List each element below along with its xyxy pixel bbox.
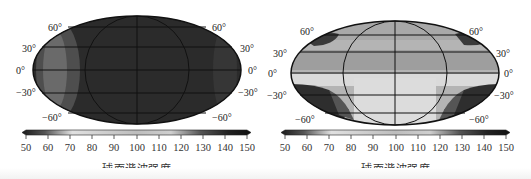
right-map-panel: 60° 30° 0° −30° −60° 60° 30° 0° −30° −60… [259, 0, 531, 179]
colorbar-tick: 130 [195, 142, 211, 153]
colorbar-tick: 80 [346, 142, 357, 153]
colorbar-tick: 130 [454, 142, 470, 153]
lat-label: −30° [238, 87, 258, 98]
lat-label: 0° [16, 65, 25, 76]
lat-label: 30° [240, 43, 254, 54]
lat-label: 30° [22, 43, 36, 54]
colorbar-tick: 110 [151, 142, 166, 153]
colorbar-tick: 100 [388, 142, 404, 153]
colorbar-tick: 120 [432, 142, 448, 153]
colorbar-tick: 110 [410, 142, 425, 153]
colorbar-tick: 150 [498, 142, 514, 153]
colorbar-tick: 70 [324, 142, 335, 153]
bottom-fade [0, 168, 531, 179]
left-map-panel: 60° 30° 0° −30° −60° 60° 30° 0° −30° −60… [0, 0, 265, 179]
lat-label: 30° [496, 48, 510, 59]
lat-label: 60° [48, 22, 62, 33]
colorbar-tick: 60 [302, 142, 313, 153]
right-graticule [291, 21, 499, 125]
lat-label: 0° [504, 68, 513, 79]
colorbar-tick: 70 [65, 142, 76, 153]
colorbar-tick: 150 [239, 142, 255, 153]
colorbar-tick: 90 [109, 142, 120, 153]
lat-label: −60° [42, 112, 62, 123]
lat-label: −60° [295, 114, 315, 125]
colorbar-tick: 100 [129, 142, 145, 153]
lat-label: 0° [268, 68, 277, 79]
colorbar-tick: 140 [217, 142, 233, 153]
lat-label: 30° [273, 48, 287, 59]
right-colorbar: 50 60 70 80 90 100 110 120 130 140 150 [280, 130, 514, 153]
colorbar-tick: 50 [21, 142, 32, 153]
left-colorbar: 50 60 70 80 90 100 110 120 130 140 150 [21, 130, 255, 153]
colorbar-tick: 80 [87, 142, 98, 153]
lat-label: 0° [248, 65, 257, 76]
lat-label: −30° [16, 87, 36, 98]
lat-label: 60° [212, 22, 226, 33]
left-graticule [33, 16, 241, 124]
lat-label: −30° [494, 90, 514, 101]
lat-label: 60° [469, 26, 483, 37]
colorbar-tick: 60 [43, 142, 54, 153]
lat-label: −30° [267, 90, 287, 101]
lat-label: −60° [469, 114, 489, 125]
left-map-svg: 60° 30° 0° −30° −60° 60° 30° 0° −30° −60… [0, 0, 265, 179]
right-map-svg: 60° 30° 0° −30° −60° 60° 30° 0° −30° −60… [259, 0, 531, 179]
colorbar-tick: 90 [368, 142, 379, 153]
lat-label: 60° [300, 26, 314, 37]
colorbar-tick: 140 [476, 142, 492, 153]
lat-label: −60° [212, 112, 232, 123]
colorbar-tick: 120 [173, 142, 189, 153]
colorbar-tick: 50 [280, 142, 291, 153]
